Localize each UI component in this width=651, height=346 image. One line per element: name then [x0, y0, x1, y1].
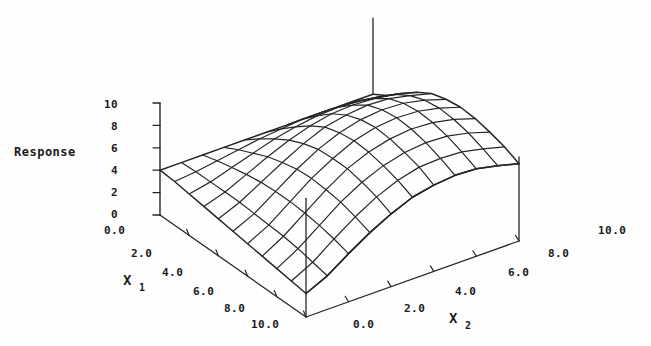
z-tick-label-8: 8: [111, 120, 118, 133]
z-tick-label-10: 10: [104, 98, 118, 111]
x2-tick-label-2: 2.0: [404, 302, 425, 315]
x2-axis-subscript: 2: [465, 320, 472, 331]
z-tick-label-0: 0: [111, 208, 118, 221]
x1-axis-subscript: 1: [139, 282, 146, 293]
x2-tick-label-10: 10.0: [598, 224, 627, 237]
surface-plot-svg: [0, 0, 651, 346]
x2-tick-label-0: 0.0: [353, 318, 374, 331]
x1-tick-label-6: 6.0: [193, 285, 214, 298]
x1-tick-label-2: 2.0: [131, 247, 152, 260]
x2-tick-label-8: 8.0: [548, 247, 569, 260]
z-tick-label-6: 6: [111, 142, 118, 155]
z-tick-label-4: 4: [111, 164, 118, 177]
x1-tick-label-8: 8.0: [224, 302, 245, 315]
x1-tick-label-4: 4.0: [162, 266, 183, 279]
x1-tick-label-10: 10.0: [251, 318, 280, 331]
x1-tick-label-0: 0.0: [104, 224, 125, 237]
figure-canvas: Response 10 8 6 4 2 0 0.0 2.0 4.0 6.0 8.…: [0, 0, 651, 346]
x2-tick-label-4: 4.0: [455, 285, 476, 298]
z-tick-label-2: 2: [111, 186, 118, 199]
x2-axis-name: X: [449, 310, 458, 326]
x2-tick-label-6: 6.0: [508, 266, 529, 279]
z-axis-title: Response: [14, 145, 76, 159]
x1-axis-name: X: [123, 272, 132, 288]
